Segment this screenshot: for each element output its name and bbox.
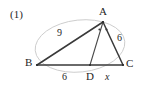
vertex-label-B: B [25,57,32,68]
segment-ac [103,22,123,65]
length-label-bd: 6 [62,72,67,82]
angle-mark-dot-right [105,28,107,30]
length-label-ab: 9 [57,28,62,38]
vertex-dot-a [102,21,104,23]
vertex-dot-d [89,64,91,66]
geometry-figure: (1) A B C D 9 6 6 x [0,0,145,91]
geometry-canvas [0,0,145,91]
length-label-dc: x [105,72,109,82]
vertex-label-A: A [99,6,107,17]
segment-ab [37,22,103,65]
length-label-ac: 6 [117,33,122,43]
vertex-dot-b [36,64,38,66]
circumscribed-circle [33,15,128,76]
vertex-label-C: C [126,58,133,69]
angle-mark-dot-left [98,28,100,30]
equal-angle-marks-at-a [98,28,107,30]
vertex-label-D: D [86,71,94,82]
vertex-dot-c [122,64,124,66]
vertex-dots [36,21,124,66]
